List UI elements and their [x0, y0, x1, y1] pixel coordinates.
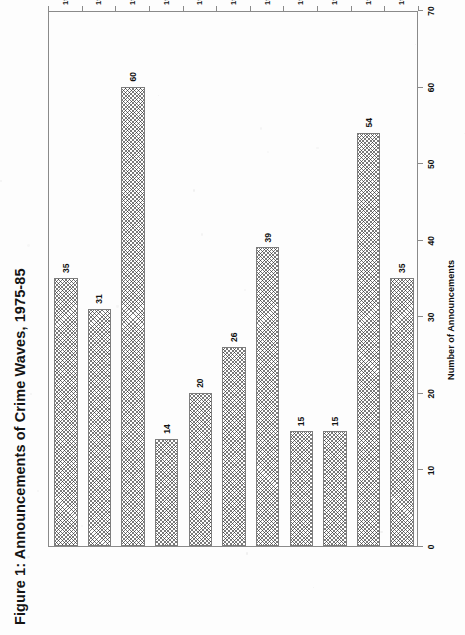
value-axis-tick-label: 50 [426, 159, 436, 168]
bar [155, 439, 179, 546]
category-axis-label: 1976 [94, 0, 103, 5]
bar-value-label: 31 [94, 294, 104, 303]
category-axis-tick [82, 6, 83, 11]
bar [256, 247, 280, 546]
value-axis-tick-label: 40 [426, 236, 436, 245]
category-axis-label: 1983 [329, 0, 338, 5]
bar-value-label: 54 [364, 118, 374, 127]
scanned-page: Figure 1: Announcements of Crime Waves, … [0, 0, 465, 635]
figure-title: Figure 1: Announcements of Crime Waves, … [12, 268, 28, 625]
value-axis-title: Number of Announcements [446, 260, 456, 380]
value-axis-tick-label: 60 [426, 83, 436, 92]
bar-value-label: 60 [128, 72, 138, 81]
figure: Figure 1: Announcements of Crime Waves, … [0, 0, 465, 635]
bar-value-label: 35 [61, 264, 71, 273]
value-axis-tick-label: 0 [426, 545, 436, 550]
bar [290, 431, 314, 546]
bar [54, 278, 78, 546]
plot-area: 3531601420263915155435 [49, 12, 417, 546]
category-axis-tick [48, 6, 49, 11]
bar [88, 309, 112, 546]
bar [323, 431, 347, 546]
category-axis-tick [183, 6, 184, 11]
category-axis-tick [351, 6, 352, 11]
value-axis-tick [418, 469, 423, 470]
category-axis-label: 1982 [296, 0, 305, 5]
value-axis-tick-label: 20 [426, 389, 436, 398]
value-axis-tick [418, 240, 423, 241]
value-axis-tick [418, 393, 423, 394]
value-axis-tick [418, 163, 423, 164]
bar-value-label: 15 [296, 417, 306, 426]
bar [189, 393, 213, 546]
plot-frame: 3531601420263915155435 [48, 11, 418, 547]
value-axis-tick [418, 87, 423, 88]
category-axis-tick [216, 6, 217, 11]
category-axis-tick [317, 6, 318, 11]
category-axis-tick [384, 6, 385, 11]
bar [121, 87, 145, 546]
category-axis-label: 1980 [229, 0, 238, 5]
category-axis-label: 1975 [60, 0, 69, 5]
bar-value-label: 39 [263, 233, 273, 242]
bar-value-label: 20 [195, 378, 205, 387]
value-axis-tick-label: 10 [426, 466, 436, 475]
category-axis-label: 1981 [262, 0, 271, 5]
bar-value-label: 26 [229, 332, 239, 341]
category-axis-tick [149, 6, 150, 11]
bar [390, 278, 414, 546]
bar [222, 347, 246, 546]
value-axis-tick-label: 30 [426, 313, 436, 322]
category-axis-tick [283, 6, 284, 11]
category-axis-tick [418, 6, 419, 11]
bar-value-label: 14 [162, 424, 172, 433]
value-axis-tick [418, 316, 423, 317]
category-axis-label: 1978 [161, 0, 170, 5]
category-axis-tick [115, 6, 116, 11]
category-axis-tick [250, 6, 251, 11]
value-axis-tick [418, 546, 423, 547]
bar [357, 133, 381, 546]
category-axis-label: 1979 [195, 0, 204, 5]
category-axis-label: 1985 [397, 0, 406, 5]
rotated-figure-wrapper: Figure 1: Announcements of Crime Waves, … [0, 0, 465, 635]
bar-value-label: 15 [330, 417, 340, 426]
category-axis-label: 1977 [128, 0, 137, 5]
value-axis-tick-label: 70 [426, 6, 436, 15]
category-axis-label: 1984 [363, 0, 372, 5]
bar-value-label: 35 [397, 264, 407, 273]
